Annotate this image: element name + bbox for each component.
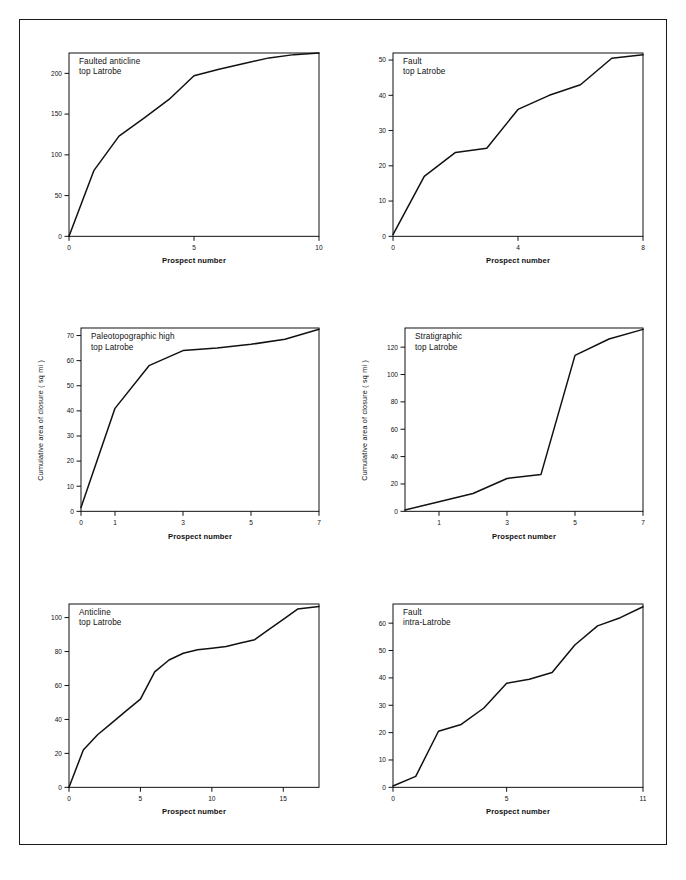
plot-area: 0204060801001201357Stratigraphic top Lat… xyxy=(343,294,667,569)
y-tick-label: 30 xyxy=(379,701,387,708)
x-tick-label: 0 xyxy=(79,519,83,526)
y-tick-label: 120 xyxy=(387,344,398,351)
x-tick-label: 3 xyxy=(181,519,185,526)
y-tick-label: 50 xyxy=(55,192,63,199)
figure-page: 0501001502000510Faulted anticline top La… xyxy=(0,0,686,880)
y-tick-label: 200 xyxy=(51,70,62,77)
y-tick-label: 100 xyxy=(387,371,398,378)
plot-frame xyxy=(69,604,319,787)
chart-panel-stratigraphic-top-latrobe: 0204060801001201357Stratigraphic top Lat… xyxy=(343,294,667,569)
y-tick-label: 0 xyxy=(382,783,386,790)
x-tick-label: 10 xyxy=(315,244,323,251)
y-tick-label: 0 xyxy=(58,783,62,790)
x-tick-label: 5 xyxy=(139,794,143,801)
y-tick-label: 10 xyxy=(379,756,387,763)
x-tick-label: 5 xyxy=(192,244,196,251)
data-series-line xyxy=(405,330,643,511)
plot-frame xyxy=(69,53,319,236)
plot-frame xyxy=(393,604,643,787)
chart-svg-fault-top-latrobe: 01020304050048 xyxy=(343,19,667,294)
x-tick-label: 7 xyxy=(317,519,321,526)
x-tick-label: 0 xyxy=(67,244,71,251)
chart-title-anticline-top-latrobe: Anticline top Latrobe xyxy=(79,608,122,629)
chart-title-paleotopographic-high-top-latrobe: Paleotopographic high top Latrobe xyxy=(91,332,175,353)
plot-area: 01020304050600511Fault intra-LatrobePros… xyxy=(343,570,667,845)
chart-title-faulted-anticline-top-latrobe: Faulted anticline top Latrobe xyxy=(79,57,140,78)
x-tick-label: 7 xyxy=(641,519,645,526)
chart-panel-grid: 0501001502000510Faulted anticline top La… xyxy=(19,19,667,845)
y-tick-label: 80 xyxy=(55,648,63,655)
x-tick-label: 1 xyxy=(113,519,117,526)
data-series-line xyxy=(69,53,319,236)
y-tick-label: 100 xyxy=(51,151,62,158)
chart-svg-paleotopographic-high-top-latrobe: 01020304050607001357 xyxy=(19,294,343,569)
y-tick-label: 10 xyxy=(379,197,387,204)
chart-panel-fault-intra-latrobe: 01020304050600511Fault intra-LatrobePros… xyxy=(343,570,667,845)
plot-frame xyxy=(405,328,643,511)
x-axis-label-fault-top-latrobe: Prospect number xyxy=(393,256,643,265)
y-tick-label: 20 xyxy=(379,729,387,736)
x-axis-label-stratigraphic-top-latrobe: Prospect number xyxy=(405,532,643,541)
plot-frame xyxy=(393,53,643,236)
y-tick-label: 40 xyxy=(379,92,387,99)
plot-area: 0501001502000510Faulted anticline top La… xyxy=(19,19,343,294)
y-tick-label: 60 xyxy=(67,357,75,364)
y-tick-label: 70 xyxy=(67,332,75,339)
plot-area: 020406080100051015Anticline top LatrobeP… xyxy=(19,570,343,845)
x-tick-label: 15 xyxy=(280,794,288,801)
data-series-line xyxy=(69,606,319,787)
y-tick-label: 40 xyxy=(55,715,63,722)
x-tick-label: 4 xyxy=(516,244,520,251)
y-tick-label: 30 xyxy=(379,127,387,134)
y-tick-label: 20 xyxy=(391,481,399,488)
x-axis-label-faulted-anticline-top-latrobe: Prospect number xyxy=(69,256,319,265)
data-series-line xyxy=(393,55,643,235)
y-tick-label: 50 xyxy=(67,382,75,389)
x-axis-label-paleotopographic-high-top-latrobe: Prospect number xyxy=(81,532,319,541)
y-tick-label: 50 xyxy=(379,56,387,63)
y-tick-label: 20 xyxy=(55,749,63,756)
x-tick-label: 0 xyxy=(67,794,71,801)
y-tick-label: 30 xyxy=(67,433,75,440)
y-tick-label: 80 xyxy=(391,399,399,406)
chart-panel-fault-top-latrobe: 01020304050048Fault top LatrobeProspect … xyxy=(343,19,667,294)
plot-frame xyxy=(81,328,319,511)
data-series-line xyxy=(393,606,643,785)
y-tick-label: 20 xyxy=(379,162,387,169)
y-tick-label: 40 xyxy=(67,408,75,415)
x-tick-label: 11 xyxy=(640,794,647,801)
x-tick-label: 0 xyxy=(391,244,395,251)
y-tick-label: 60 xyxy=(379,619,387,626)
y-tick-label: 20 xyxy=(67,458,75,465)
x-tick-label: 10 xyxy=(208,794,216,801)
x-tick-label: 1 xyxy=(437,519,441,526)
y-tick-label: 0 xyxy=(382,233,386,240)
chart-title-stratigraphic-top-latrobe: Stratigraphic top Latrobe xyxy=(415,332,462,353)
y-tick-label: 40 xyxy=(391,453,399,460)
plot-area: 01020304050048Fault top LatrobeProspect … xyxy=(343,19,667,294)
y-tick-label: 100 xyxy=(51,614,62,621)
chart-svg-anticline-top-latrobe: 020406080100051015 xyxy=(19,570,343,845)
chart-panel-anticline-top-latrobe: 020406080100051015Anticline top LatrobeP… xyxy=(19,570,343,845)
chart-svg-faulted-anticline-top-latrobe: 0501001502000510 xyxy=(19,19,343,294)
y-tick-label: 0 xyxy=(70,508,74,515)
x-tick-label: 8 xyxy=(641,244,645,251)
chart-svg-stratigraphic-top-latrobe: 0204060801001201357 xyxy=(343,294,667,569)
data-series-line xyxy=(81,330,319,508)
x-tick-label: 3 xyxy=(505,519,509,526)
y-tick-label: 60 xyxy=(391,426,399,433)
chart-panel-paleotopographic-high-top-latrobe: 01020304050607001357Paleotopographic hig… xyxy=(19,294,343,569)
x-tick-label: 0 xyxy=(391,794,395,801)
y-tick-label: 60 xyxy=(55,682,63,689)
chart-title-fault-top-latrobe: Fault top Latrobe xyxy=(403,57,446,78)
y-tick-label: 40 xyxy=(379,674,387,681)
x-tick-label: 5 xyxy=(573,519,577,526)
plot-area: 01020304050607001357Paleotopographic hig… xyxy=(19,294,343,569)
x-tick-label: 5 xyxy=(505,794,509,801)
y-tick-label: 0 xyxy=(58,233,62,240)
y-tick-label: 150 xyxy=(51,111,62,118)
y-tick-label: 50 xyxy=(379,647,387,654)
x-axis-label-fault-intra-latrobe: Prospect number xyxy=(393,807,643,816)
chart-title-fault-intra-latrobe: Fault intra-Latrobe xyxy=(403,608,451,629)
x-tick-label: 5 xyxy=(249,519,253,526)
